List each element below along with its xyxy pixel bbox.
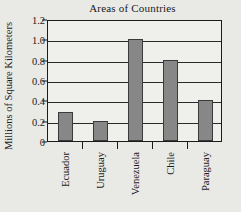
bar	[198, 100, 214, 141]
bar	[128, 39, 144, 141]
bar-chart-figure: Areas of Countries Millions of Square Ki…	[0, 0, 241, 212]
x-tick-label-container: Uruguay	[83, 152, 117, 210]
x-tick-label: Chile	[164, 152, 175, 175]
x-tick-label-container: Venezuela	[118, 152, 152, 210]
x-tick-label-container: Chile	[153, 152, 187, 210]
x-tick-mark	[152, 142, 153, 149]
bar	[58, 112, 74, 141]
plot-area	[47, 20, 222, 142]
x-tick-mark	[187, 142, 188, 149]
x-tick-label-container: Paraguay	[188, 152, 222, 210]
x-tick-mark	[82, 142, 83, 149]
y-axis-label: Millions of Square Kilometers	[3, 22, 14, 150]
y-axis-label-container: Millions of Square Kilometers	[0, 16, 16, 156]
bar	[93, 121, 109, 141]
x-tick-mark	[117, 142, 118, 149]
x-tick-label: Uruguay	[94, 152, 105, 189]
x-tick-label: Ecuador	[59, 152, 70, 187]
chart-title: Areas of Countries	[40, 2, 225, 14]
x-tick-label: Venezuela	[129, 152, 140, 195]
bar	[163, 60, 179, 141]
x-tick-label-container: Ecuador	[48, 152, 82, 210]
x-tick-label: Paraguay	[199, 152, 210, 191]
